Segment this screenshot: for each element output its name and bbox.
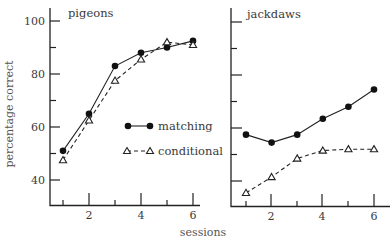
left-xtick-6: 6 bbox=[190, 209, 197, 222]
left-xtick-2: 2 bbox=[86, 209, 93, 222]
matching-point bbox=[112, 63, 119, 70]
ytick-80: 80 bbox=[31, 68, 45, 81]
right-axes bbox=[231, 8, 390, 207]
left-axes bbox=[50, 8, 200, 206]
x-axis-label: sessions bbox=[180, 226, 227, 239]
right-xtick-6: 6 bbox=[371, 210, 378, 223]
right-xtick-4: 4 bbox=[319, 210, 326, 223]
panel-title-jackdaws: jackdaws bbox=[245, 7, 301, 21]
panel-title-pigeons: pigeons bbox=[68, 6, 114, 20]
matching-point bbox=[345, 104, 352, 111]
ytick-100: 100 bbox=[24, 15, 45, 28]
ytick-60: 60 bbox=[31, 121, 45, 134]
legend-conditional-label: conditional bbox=[158, 144, 223, 158]
conditional-point bbox=[370, 146, 377, 152]
y-axis-label: percentage correct bbox=[3, 60, 16, 168]
panel-pigeons: 100 80 60 40 2 4 6 pigeons matching cond… bbox=[24, 6, 223, 222]
legend-matching-label: matching bbox=[158, 119, 213, 133]
left-x-ticks bbox=[63, 193, 193, 206]
matching-point bbox=[371, 86, 378, 93]
ytick-40: 40 bbox=[31, 174, 45, 187]
matching-point bbox=[294, 131, 301, 138]
matching-point bbox=[268, 139, 275, 146]
matching-point bbox=[243, 131, 250, 138]
legend: matching conditional bbox=[124, 119, 224, 158]
conditional-line bbox=[246, 149, 374, 193]
conditional-point bbox=[137, 56, 144, 62]
right-xtick-2: 2 bbox=[268, 210, 275, 223]
conditional-point bbox=[242, 189, 249, 195]
matching-line bbox=[246, 90, 374, 143]
conditional-point bbox=[268, 173, 275, 179]
two-panel-line-chart: percentage correct 100 80 60 40 2 4 6 pi… bbox=[0, 0, 392, 243]
matching-line bbox=[63, 41, 193, 151]
left-xtick-4: 4 bbox=[138, 209, 145, 222]
conditional-point bbox=[345, 146, 352, 152]
legend-matching-marker bbox=[125, 123, 132, 130]
matching-point bbox=[60, 148, 67, 155]
conditional-point bbox=[163, 39, 170, 45]
right-y-ticks bbox=[231, 22, 242, 181]
matching-point bbox=[320, 115, 327, 122]
conditional-point bbox=[59, 157, 66, 163]
panel-jackdaws: 2 4 6 jackdaws bbox=[231, 7, 390, 223]
left-y-ticks bbox=[50, 21, 60, 180]
right-x-ticks bbox=[246, 194, 374, 207]
right-series bbox=[242, 86, 377, 195]
